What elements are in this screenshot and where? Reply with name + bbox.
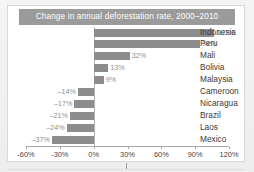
- chart-bar-row: –37%Mexico: [8, 134, 246, 146]
- chart-bar-row: –14%Cameroon: [8, 87, 246, 99]
- x-axis-tick-label: -60%: [11, 149, 41, 160]
- x-axis-tick-label: 60%: [146, 149, 176, 160]
- chart-bar-row: –24%Laos: [8, 122, 246, 134]
- chart-bar-row: –21%Brazil: [8, 110, 246, 122]
- bar: [94, 29, 215, 37]
- category-label: Mali: [200, 50, 215, 61]
- plot-area: 107%Indonesia94%Peru32%Mali13%Bolivia9%M…: [8, 27, 246, 146]
- bar: [78, 88, 94, 96]
- chart-bar-row: –17%Nicaragua: [8, 98, 246, 110]
- category-label: Indonesia: [200, 27, 236, 38]
- category-label: Laos: [200, 122, 218, 133]
- bar-value-label: –14%: [44, 86, 76, 97]
- x-axis-tick-label: 30%: [113, 149, 143, 160]
- category-label: Nicaragua: [200, 98, 238, 109]
- category-label: Peru: [200, 38, 218, 49]
- bar-value-label: –17%: [40, 98, 72, 109]
- bar-value-label: –21%: [36, 110, 68, 121]
- bar: [70, 112, 94, 120]
- bar: [94, 76, 104, 84]
- chart-bar-row: 9%Malaysia: [8, 75, 246, 87]
- bar-value-label: 32%: [132, 50, 146, 61]
- bar: [94, 64, 109, 72]
- category-label: Cameroon: [200, 86, 239, 97]
- bar-value-label: –24%: [33, 122, 65, 133]
- bar: [74, 100, 93, 108]
- chart-bar-row: 94%Peru: [8, 39, 246, 51]
- chart-bar-row: 107%Indonesia: [8, 27, 246, 39]
- chart-bar-row: 13%Bolivia: [8, 63, 246, 75]
- bar: [94, 52, 130, 60]
- screenshot-page: Change in annual deforestation rate, 200…: [0, 0, 254, 172]
- x-axis-tick-label: 90%: [180, 149, 210, 160]
- category-label: Bolivia: [200, 62, 224, 73]
- chart-bar-row: 32%Mali: [8, 51, 246, 63]
- category-label: Brazil: [200, 110, 221, 121]
- chart-card: Change in annual deforestation rate, 200…: [7, 5, 245, 162]
- x-axis-tick-label: 0%: [79, 149, 109, 160]
- x-axis-tick-label: 120%: [214, 149, 244, 160]
- bar: [52, 136, 94, 144]
- bar: [67, 124, 94, 132]
- category-label: Malaysia: [200, 74, 233, 85]
- bar-value-label: –37%: [18, 134, 50, 145]
- bar-value-label: 9%: [106, 74, 116, 85]
- bar-value-label: 13%: [110, 62, 124, 73]
- category-label: Mexico: [200, 134, 226, 145]
- page-bottom-rule: [7, 169, 245, 170]
- bar: [94, 40, 200, 48]
- x-axis-tick-label: -30%: [45, 149, 75, 160]
- chart-title: Change in annual deforestation rate, 200…: [19, 9, 235, 25]
